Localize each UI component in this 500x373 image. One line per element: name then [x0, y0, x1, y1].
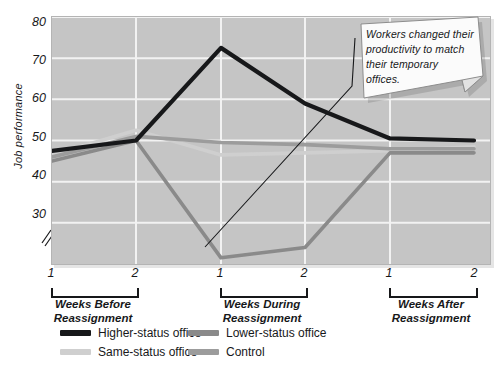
y-tick-40: 40: [16, 168, 46, 182]
legend-item-same-status[interactable]: Same-status office: [60, 345, 197, 359]
legend-label-same-status: Same-status office: [98, 345, 197, 359]
callout-text: Workers changed their productivity to ma…: [366, 27, 474, 87]
group-bracket-before: [51, 288, 139, 298]
callout-note: Workers changed their productivity to ma…: [352, 14, 489, 106]
group-bracket-during: [220, 288, 308, 298]
group-bracket-after: [389, 288, 478, 298]
x-tick-during-2: 2: [301, 266, 308, 280]
legend-swatch-lower-status: [188, 330, 219, 336]
legend-item-control[interactable]: Control: [188, 345, 265, 359]
legend-swatch-higher-status: [60, 330, 91, 336]
legend-label-higher-status: Higher-status office: [98, 326, 201, 340]
x-tick-after-1: 1: [386, 266, 393, 280]
y-tick-60: 60: [16, 91, 46, 105]
legend-item-lower-status[interactable]: Lower-status office: [188, 326, 327, 340]
y-tick-30: 30: [16, 207, 46, 221]
group-label-during-line2: Reassignment: [223, 312, 302, 324]
group-label-after-line1: Weeks After: [398, 298, 464, 310]
group-label-before: Weeks BeforeReassignment: [54, 298, 133, 325]
y-axis-ticks: 80 70 60 50 40 30: [14, 0, 46, 373]
y-tick-50: 50: [16, 130, 46, 144]
legend-label-control: Control: [226, 345, 265, 359]
group-label-after-line2: Reassignment: [392, 312, 471, 324]
legend-swatch-same-status: [60, 349, 91, 355]
group-label-during: Weeks DuringReassignment: [223, 298, 302, 325]
x-tick-after-2: 2: [471, 266, 478, 280]
group-label-during-line1: Weeks During: [224, 298, 300, 310]
group-label-before-line1: Weeks Before: [55, 298, 131, 310]
chart-legend: Higher-status office Lower-status office…: [0, 326, 500, 366]
group-label-before-line2: Reassignment: [54, 312, 133, 324]
x-tick-before-2: 2: [132, 266, 139, 280]
group-label-after: Weeks AfterReassignment: [392, 298, 471, 325]
legend-item-higher-status[interactable]: Higher-status office: [60, 326, 201, 340]
chart-figure: Job performance 80 70 60 50 40 30 1 2 1 …: [0, 0, 500, 373]
legend-swatch-control: [188, 349, 219, 355]
legend-label-lower-status: Lower-status office: [226, 326, 327, 340]
y-tick-70: 70: [16, 53, 46, 67]
series-line: [52, 141, 474, 258]
x-tick-during-1: 1: [217, 266, 224, 280]
y-tick-80: 80: [16, 15, 46, 29]
x-tick-before-1: 1: [48, 266, 55, 280]
